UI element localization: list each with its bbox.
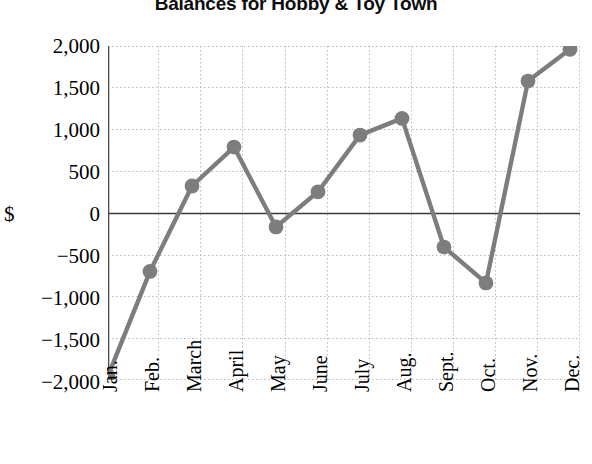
- x-tick-label-dec: Dec.: [562, 355, 582, 392]
- x-tick-label-aug: Aug.: [394, 353, 414, 392]
- x-tick-label-july: July: [352, 359, 372, 392]
- x-tick-label-april: April: [226, 350, 246, 392]
- x-tick-label-march: March: [184, 340, 204, 392]
- x-tick-label-feb: Feb.: [142, 357, 162, 392]
- x-tick-label-june: June: [310, 355, 330, 392]
- x-tick-label-may: May: [268, 355, 288, 392]
- x-tick-label-jan: Jan.: [100, 360, 120, 392]
- x-axis-tick-labels: Jan. Feb. March April May June July Aug.…: [0, 0, 592, 464]
- x-tick-label-nov: Nov.: [520, 354, 540, 392]
- chart-figure: Balances for Hobby & Toy Town 2,000 1,50…: [0, 0, 592, 464]
- x-tick-label-sept: Sept.: [436, 351, 456, 392]
- x-tick-label-oct: Oct.: [478, 358, 498, 392]
